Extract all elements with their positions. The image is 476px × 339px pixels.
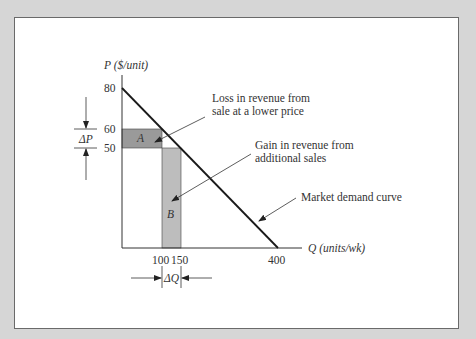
y-axis-label: P ($/unit) [103,59,148,72]
x-axis-label: Q (units/wk) [308,242,365,255]
x-tick-100: 100 [152,254,170,266]
y-tick-80: 80 [104,82,116,94]
y-tick-60: 60 [104,123,116,135]
region-b [162,148,181,248]
delta-q-label: ΔQ [163,272,180,284]
delta-p-label: ΔP [78,133,93,145]
annotation-demand: Market demand curve [259,191,402,221]
x-tick-400: 400 [268,254,286,266]
loss-text-line2: sale at a lower price [212,105,304,118]
gain-text-line2: additional sales [255,152,327,164]
demand-chart: P ($/unit) Q (units/wk) 80 60 50 100 150… [0,0,476,339]
loss-text-line1: Loss in revenue from [212,92,310,104]
demand-curve-label: Market demand curve [301,191,402,203]
region-a-label: A [136,132,145,144]
x-tick-150: 150 [171,254,189,266]
annotation-loss: Loss in revenue from sale at a lower pri… [155,92,310,142]
region-b-label: B [167,208,174,220]
delta-p-bracket: ΔP [74,97,97,180]
y-tick-50: 50 [104,142,116,154]
delta-q-bracket: ΔQ [131,266,212,288]
gain-text-line1: Gain in revenue from [255,139,354,151]
